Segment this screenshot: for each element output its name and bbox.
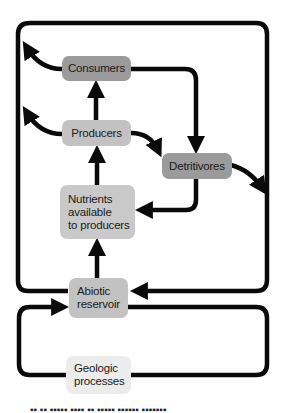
producers-label: Producers [71, 127, 122, 140]
geologic-processes-node: Geologic processes [66, 356, 131, 394]
detritivores-label: Detritivores [169, 160, 225, 173]
consumers-node: Consumers [62, 56, 131, 81]
figure-caption: ▪▪ ▪▪ ▪▪▪▪▪ ▪▪▪▪ ▪▪ ▪▪▪▪▪ ▪▪▪▪▪▪ ▪▪▪▪▪▪▪ [30, 404, 166, 413]
nutrients-node: Nutrients available to producers [60, 185, 135, 239]
producers-out-arrow [27, 113, 62, 134]
nutrients-label-line2: available [68, 206, 112, 219]
lower-loop-left [19, 307, 66, 375]
detritivores-to-nutrients [143, 178, 196, 210]
cycle-arrows [0, 0, 285, 413]
detritivores-node: Detritivores [162, 153, 232, 179]
consumers-out-arrow [27, 48, 62, 69]
consumers-label: Consumers [68, 62, 125, 75]
geologic-label-line2: processes [74, 375, 125, 388]
detritivores-out-arrow [231, 165, 262, 188]
nutrients-label-line3: to producers [68, 219, 130, 232]
geologic-label-line1: Geologic [74, 362, 118, 375]
lower-loop-right [128, 307, 267, 375]
abiotic-label-line2: reservoir [77, 298, 120, 311]
abiotic-reservoir-node: Abiotic reservoir [69, 278, 128, 318]
producers-node: Producers [62, 120, 131, 146]
producers-to-detritivores [131, 133, 158, 150]
nutrients-label-line1: Nutrients [68, 193, 112, 206]
abiotic-label-line1: Abiotic [77, 285, 110, 298]
